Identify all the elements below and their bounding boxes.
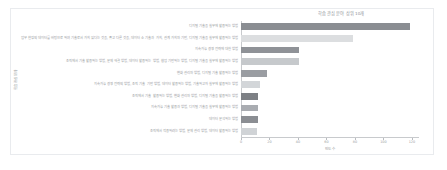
x-tick-label: 80 — [353, 141, 357, 144]
bar — [241, 70, 267, 77]
x-tick-label: 100 — [380, 141, 386, 144]
x-axis-spine — [241, 137, 419, 138]
category-label: 지속가능 기술 활용과 방법, 디지털 기술을 실무에 활용하는 방법 — [151, 106, 238, 109]
bar — [241, 93, 258, 100]
y-axis-label: 학습 관심 분야 — [15, 70, 19, 90]
chart-title: 학습 관심 분야 상위 10개 — [318, 12, 365, 16]
bar-row: 변화 관리와 방법, 디지털 기술 활용하는 방법 — [241, 67, 419, 79]
bar — [241, 128, 257, 135]
x-tick-label: 0 — [240, 141, 242, 144]
bar-row: 조직에서 기술 활용하는 방법, 문제 해결 방법, 데이터 활용하는 방법, … — [241, 56, 419, 68]
x-tick-label: 60 — [324, 141, 328, 144]
chart-figure: 학습 관심 분야 상위 10개 학습 관심 분야 빈도 수 0204060801… — [0, 0, 447, 170]
category-label: 데이터 분석하는 방법 — [209, 118, 238, 121]
bar — [241, 105, 258, 112]
bar — [241, 47, 299, 54]
bar-row: 업무 현장의 데이터를 바탕으로 하여 기술로서 가치 있다는 것을, 좋고 다… — [241, 33, 419, 45]
bar-row: 조직에서 기술 활용하는 방법, 변화 관리와 방법, 디지털 기술을 활용하는… — [241, 91, 419, 103]
x-tick-label: 120 — [409, 141, 415, 144]
bar-row: 지속가능 경영 전략의 방법, 조직 기술 기반 방법, 데이터 활용하는 방법… — [241, 79, 419, 91]
x-tick-label: 20 — [267, 141, 271, 144]
category-label: 디지털 기술을 실무에 활용하는 방법 — [189, 25, 238, 28]
bar — [241, 58, 299, 65]
category-label: 조직에서 기술 활용하는 방법, 문제 해결 방법, 데이터 활용하는 방법, … — [66, 60, 238, 63]
x-tick-label: 40 — [296, 141, 300, 144]
bar — [241, 116, 258, 123]
bar — [241, 81, 260, 88]
category-label: 지속가능 경영 전략에 대한 방법 — [195, 48, 238, 51]
category-label: 조직에서 적용하려는 방법, 문제 관리 방법, 데이터 활용하는 방법 — [150, 130, 238, 133]
category-label: 지속가능 경영 전략의 방법, 조직 기술 기반 방법, 데이터 활용하는 방법… — [94, 83, 238, 86]
bar — [241, 35, 353, 42]
bar-row: 지속가능 경영 전략에 대한 방법 — [241, 44, 419, 56]
category-label: 조직에서 기술 활용하는 방법, 변화 관리와 방법, 디지털 기술을 활용하는… — [132, 95, 238, 98]
bar-row: 디지털 기술을 실무에 활용하는 방법 — [241, 21, 419, 33]
bar-row: 지속가능 기술 활용과 방법, 디지털 기술을 실무에 활용하는 방법 — [241, 102, 419, 114]
bar — [241, 23, 410, 30]
category-label: 업무 현장의 데이터를 바탕으로 하여 기술로서 가치 있다는 것을, 좋고 다… — [21, 37, 238, 40]
x-axis-label: 빈도 수 — [325, 148, 335, 152]
category-label: 변화 관리와 방법, 디지털 기술 활용하는 방법 — [177, 72, 238, 75]
bar-row: 조직에서 적용하려는 방법, 문제 관리 방법, 데이터 활용하는 방법 — [241, 125, 419, 137]
bar-row: 데이터 분석하는 방법 — [241, 114, 419, 126]
